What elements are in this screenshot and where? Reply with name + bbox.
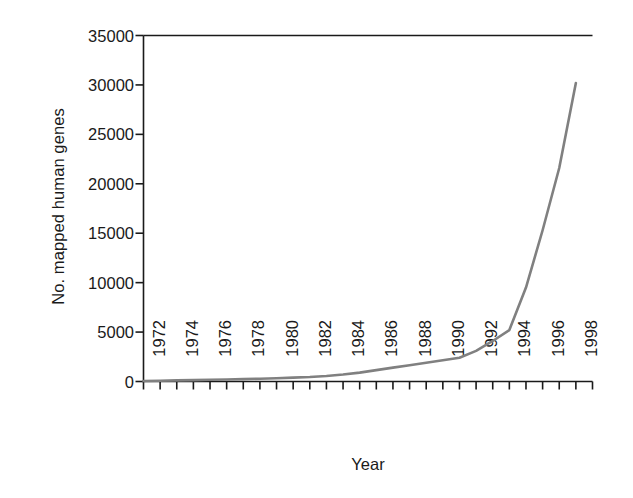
x-axis-title: Year	[143, 455, 593, 474]
plot-area	[0, 0, 633, 498]
series-line-mapped-genes	[144, 83, 576, 381]
data-series	[144, 83, 576, 381]
gene-mapping-line-chart: No. mapped human genes 05000100001500020…	[0, 0, 633, 498]
axes	[136, 36, 593, 390]
axis-spine	[144, 36, 593, 382]
